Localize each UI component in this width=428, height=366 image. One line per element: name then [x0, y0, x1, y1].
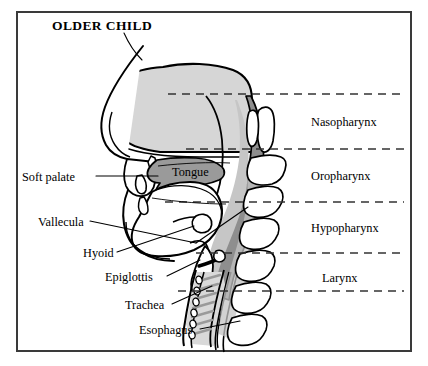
- vertebra-c1-odontoid: [257, 107, 274, 152]
- hyoid-bone: [192, 214, 211, 232]
- vertebra-c7: [228, 314, 267, 345]
- label-larynx: Larynx: [322, 271, 358, 286]
- label-nasopharynx: Nasopharynx: [311, 115, 377, 130]
- label-esophagus: Esophagus: [139, 323, 192, 338]
- anatomy-figure: OLDER CHILD Soft palate Vallecula Hyoid …: [0, 0, 428, 366]
- label-hypopharynx: Hypopharynx: [311, 221, 379, 236]
- label-trachea: Trachea: [125, 298, 164, 313]
- label-oropharynx: Oropharynx: [311, 169, 370, 184]
- vertebra-c4: [240, 218, 279, 249]
- label-vallecula: Vallecula: [38, 215, 84, 230]
- label-epiglottis: Epiglottis: [105, 270, 153, 285]
- vertebra-c1-arch: [247, 110, 259, 146]
- vertebra-c5: [236, 250, 275, 281]
- label-hyoid: Hyoid: [83, 246, 114, 261]
- arytenoid: [214, 250, 225, 262]
- lower-incisor-tooth: [139, 197, 148, 214]
- label-soft-palate: Soft palate: [22, 170, 75, 185]
- vertebra-c2: [247, 155, 286, 185]
- page-title: OLDER CHILD: [52, 18, 152, 34]
- label-tongue: Tongue: [172, 165, 209, 180]
- vertebra-c6: [232, 282, 271, 313]
- upper-incisor-tooth: [136, 175, 147, 194]
